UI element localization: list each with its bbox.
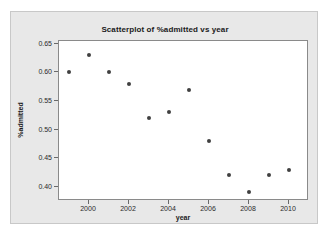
data-point xyxy=(267,173,271,177)
x-axis-tick xyxy=(168,200,169,204)
data-point xyxy=(207,139,211,143)
x-axis-tick-label: 2008 xyxy=(233,205,263,212)
x-axis-tick xyxy=(248,200,249,204)
data-point xyxy=(107,70,111,74)
chart-figure-panel: Scatterplot of %admitted vs year %admitt… xyxy=(10,11,318,224)
x-axis-tick-label: 2006 xyxy=(193,205,223,212)
chart-title: Scatterplot of %admitted vs year xyxy=(11,25,319,34)
x-axis-tick-label: 2004 xyxy=(153,205,183,212)
plot-data-layer xyxy=(59,41,307,199)
data-point xyxy=(67,70,71,74)
data-point xyxy=(167,110,171,114)
y-axis-tick-label: 0.65 xyxy=(26,39,52,46)
data-point xyxy=(287,168,291,172)
data-point xyxy=(147,116,151,120)
plot-area xyxy=(58,40,308,200)
data-point xyxy=(247,190,251,194)
data-point xyxy=(187,88,191,92)
y-axis-tick-label: 0.40 xyxy=(26,182,52,189)
x-axis-tick xyxy=(88,200,89,204)
y-axis-tick-label: 0.60 xyxy=(26,68,52,75)
x-axis: year 200020022004200620082010 xyxy=(58,200,308,226)
x-axis-tick-label: 2002 xyxy=(113,205,143,212)
x-axis-tick xyxy=(208,200,209,204)
y-axis: %admitted 0.400.450.500.550.600.65 xyxy=(11,40,58,200)
x-axis-tick xyxy=(128,200,129,204)
data-point xyxy=(87,53,91,57)
y-axis-title: %admitted xyxy=(17,85,24,155)
y-axis-tick-label: 0.55 xyxy=(26,97,52,104)
x-axis-title: year xyxy=(58,214,308,221)
data-point xyxy=(227,173,231,177)
y-axis-tick-label: 0.50 xyxy=(26,125,52,132)
y-axis-tick-label: 0.45 xyxy=(26,154,52,161)
x-axis-tick-label: 2010 xyxy=(273,205,303,212)
x-axis-tick-label: 2000 xyxy=(73,205,103,212)
data-point xyxy=(127,82,131,86)
x-axis-tick xyxy=(288,200,289,204)
